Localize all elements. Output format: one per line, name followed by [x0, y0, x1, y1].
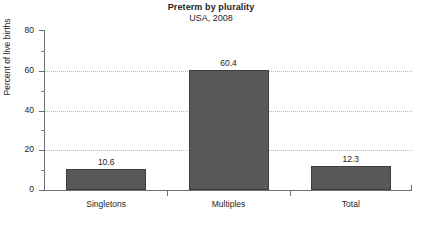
y-tick-label: 80	[0, 26, 34, 35]
bar-value-label: 10.6	[76, 157, 136, 167]
y-tick-mark	[39, 190, 45, 191]
y-tick-mark	[39, 111, 45, 112]
y-tick-mark	[39, 150, 45, 151]
y-tick-label: 0	[0, 185, 34, 194]
bar-value-label: 12.3	[321, 154, 381, 164]
y-minor-tick-mark	[41, 130, 45, 131]
y-tick-label: 20	[0, 145, 34, 154]
chart-title: Preterm by plurality	[0, 2, 422, 13]
x-tick-mark	[167, 191, 168, 196]
x-tick-mark	[290, 191, 291, 196]
bar-chart: Preterm by plurality USA, 2008 Percent o…	[0, 0, 422, 225]
y-tick-mark	[39, 71, 45, 72]
y-tick-label: 60	[0, 66, 34, 75]
chart-subtitle: USA, 2008	[0, 13, 422, 24]
y-axis-title: Percent of live births	[1, 0, 13, 122]
bar	[311, 166, 391, 190]
bar	[189, 70, 269, 190]
y-tick-label: 40	[0, 106, 34, 115]
x-tick-label: Singletons	[61, 199, 151, 209]
x-axis-line	[44, 190, 412, 191]
y-minor-tick-mark	[41, 91, 45, 92]
x-tick-label: Total	[306, 199, 396, 209]
y-minor-tick-mark	[41, 170, 45, 171]
x-tick-label: Multiples	[184, 199, 274, 209]
y-minor-tick-mark	[41, 51, 45, 52]
bar-value-label: 60.4	[199, 58, 259, 68]
bar	[66, 169, 146, 190]
